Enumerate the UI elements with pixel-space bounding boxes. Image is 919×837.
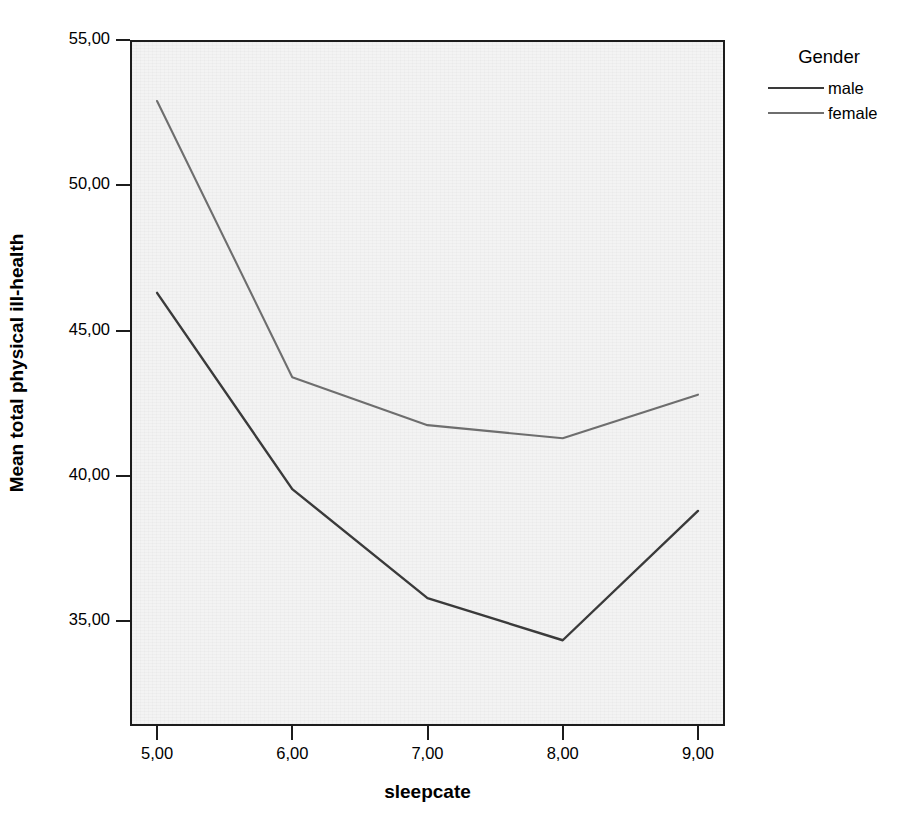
y-tick-label: 55,00: [10, 29, 110, 48]
legend-swatch-male-icon: [768, 87, 824, 89]
line-chart: Mean total physical ill-health 35,0040,0…: [0, 0, 919, 837]
legend-title: Gender: [768, 46, 890, 68]
x-tick-mark: [562, 726, 564, 740]
y-tick-mark: [116, 475, 130, 477]
x-tick-label: 6,00: [237, 744, 347, 763]
legend: Gender male female: [768, 46, 908, 127]
legend-swatch-female-icon: [768, 112, 824, 114]
x-tick-label: 9,00: [643, 744, 753, 763]
legend-item-male[interactable]: male: [768, 77, 908, 99]
y-tick-mark: [116, 620, 130, 622]
x-tick-label: 5,00: [102, 744, 212, 763]
x-tick-mark: [156, 726, 158, 740]
y-tick-mark: [116, 184, 130, 186]
y-tick-mark: [116, 330, 130, 332]
plot-background-texture: [132, 42, 723, 724]
plot-area: [130, 40, 725, 726]
x-axis-title: sleepcate: [130, 781, 725, 803]
y-tick-label: 50,00: [10, 174, 110, 193]
x-tick-label: 7,00: [373, 744, 483, 763]
y-tick-label: 35,00: [10, 610, 110, 629]
legend-item-female[interactable]: female: [768, 102, 908, 124]
x-tick-label: 8,00: [508, 744, 618, 763]
y-axis-title: Mean total physical ill-health: [6, 234, 28, 493]
legend-label-male: male: [828, 79, 864, 98]
y-tick-mark: [116, 39, 130, 41]
x-tick-mark: [291, 726, 293, 740]
legend-label-female: female: [828, 104, 878, 123]
y-tick-label: 45,00: [10, 320, 110, 339]
x-tick-mark: [697, 726, 699, 740]
y-tick-label: 40,00: [10, 465, 110, 484]
x-tick-mark: [427, 726, 429, 740]
